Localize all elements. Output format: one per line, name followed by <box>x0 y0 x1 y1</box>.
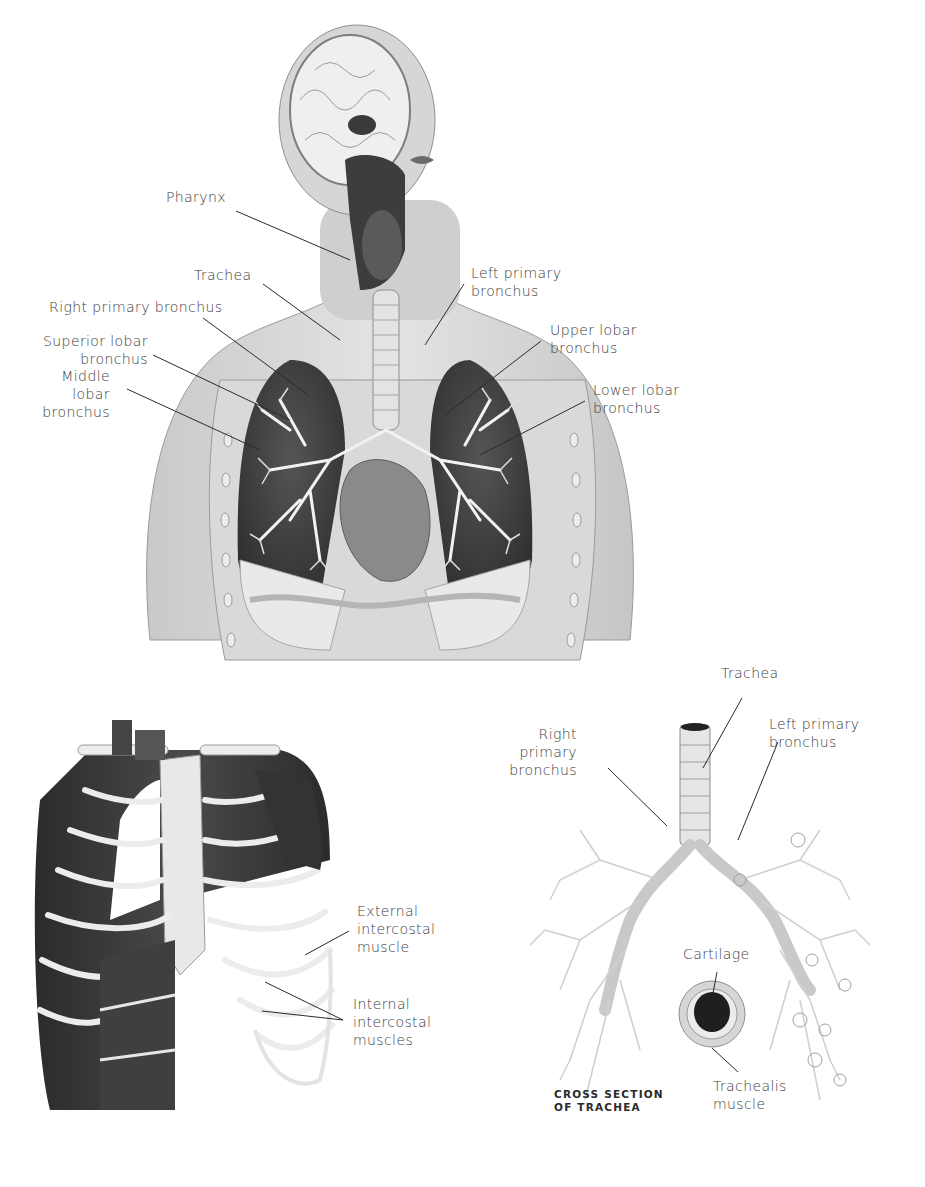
label-cartilage: Cartilage <box>683 945 750 963</box>
anatomy-artwork <box>0 0 925 1187</box>
label-left-primary-bronchus: Left primary bronchus <box>471 264 561 300</box>
caption-cross-section-of-trachea: CROSS SECTION OF TRACHEA <box>554 1088 664 1114</box>
ribcage-figure <box>35 720 332 1110</box>
label-upper-lobar-bronchus: Upper lobar bronchus <box>550 321 637 357</box>
label-right-primary-bronchus-tree: Right primary bronchus <box>495 725 577 779</box>
label-right-primary-bronchus: Right primary bronchus <box>49 298 222 316</box>
label-middle-lobar-bronchus: Middle lobar bronchus <box>30 367 110 421</box>
label-internal-intercostal-muscles: Internal intercostal muscles <box>353 995 431 1049</box>
bronchial-tree-figure <box>530 723 870 1100</box>
label-lower-lobar-bronchus: Lower lobar bronchus <box>593 381 679 417</box>
label-trachealis-muscle: Trachealis muscle <box>713 1077 787 1113</box>
label-pharynx: Pharynx <box>166 188 226 206</box>
label-left-primary-bronchus-tree: Left primary bronchus <box>769 715 859 751</box>
label-superior-lobar-bronchus: Superior lobar bronchus <box>25 332 148 368</box>
label-trachea: Trachea <box>194 266 251 284</box>
label-trachea-tree: Trachea <box>721 664 778 682</box>
label-external-intercostal-muscle: External intercostal muscle <box>357 902 435 956</box>
